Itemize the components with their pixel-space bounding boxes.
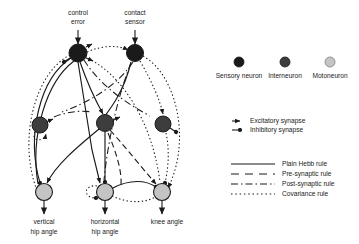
legend-neuron-types: Sensory neuron Interneuron Motoneuron	[216, 57, 348, 80]
output-arrows	[44, 200, 162, 214]
legend-label-inhibitory-synapse: Inhibitory synapse	[250, 126, 303, 134]
input-arrows	[78, 30, 135, 44]
edge-interneuron-middle-to-knee-dashed	[110, 130, 156, 184]
legend-label-interneuron: Interneuron	[268, 72, 302, 79]
legend-synapse-types: Excitatory synapse Inhibitory synapse	[232, 117, 306, 134]
edge-interneuron-right-to-knee-dotted	[165, 133, 168, 183]
legend-label-motoneuron: Motoneuron	[312, 72, 348, 79]
input-labels: control error contact sensor	[68, 9, 146, 25]
neuron-horizontal-hip-angle[interactable]	[97, 184, 114, 201]
terminal-mark-2	[86, 58, 93, 61]
neuron-interneuron-right[interactable]	[155, 116, 171, 132]
label-horizontal-hip-line1: horizontal	[91, 218, 120, 225]
label-vertical-hip-line1: vertical	[34, 218, 55, 225]
output-labels: vertical hip angle horizontal hip angle …	[31, 218, 184, 236]
neuron-contact-sensor[interactable]	[127, 45, 144, 62]
label-control-error-line1: control	[68, 9, 88, 16]
label-horizontal-hip-line2: hip angle	[92, 228, 119, 236]
edge-horizontal-hip-to-knee-dotted	[112, 196, 157, 202]
neuron-vertical-hip-angle[interactable]	[36, 184, 53, 201]
label-knee-angle: knee angle	[151, 218, 184, 226]
motoneurons	[36, 184, 171, 201]
terminal-mark-6	[170, 128, 176, 132]
edge-control-error-to-interneuron-middle	[80, 62, 103, 114]
neuron-control-error[interactable]	[69, 44, 87, 62]
neuron-interneuron-middle[interactable]	[97, 115, 114, 132]
neuron-interneuron-left[interactable]	[32, 117, 48, 133]
interneurons	[32, 115, 171, 134]
legend-label-covariance-rule: Covariance rule	[282, 190, 329, 197]
edge-control-error-to-contact-sensor-dotted	[87, 46, 128, 52]
edges-pre-synaptic	[108, 130, 156, 186]
legend-label-sensory-neuron: Sensory neuron	[216, 72, 263, 80]
legend-swatch-interneuron	[280, 57, 290, 67]
neuron-knee-angle[interactable]	[154, 184, 171, 201]
legend-swatch-motoneuron	[325, 57, 335, 67]
edges-plain-hebb	[35, 58, 156, 188]
label-control-error-line2: error	[71, 18, 86, 25]
legend-label-plain-hebb-rule: Plain Hebb rule	[282, 160, 327, 167]
legend-learning-rules: Plain Hebb rule Pre-synaptic rule Post-s…	[231, 160, 335, 197]
label-contact-sensor-line2: sensor	[125, 18, 146, 25]
terminal-mark-1	[86, 44, 92, 47]
legend-label-post-synaptic-rule: Post-synaptic rule	[282, 180, 335, 188]
legend-label-excitatory-synapse: Excitatory synapse	[250, 117, 306, 125]
label-vertical-hip-line2: hip angle	[31, 228, 58, 236]
legend-label-pre-synaptic-rule: Pre-synaptic rule	[282, 170, 332, 178]
edge-horizontal-hip-to-knee	[113, 182, 156, 189]
label-contact-sensor-line1: contact	[124, 9, 145, 16]
network-diagram: control error contact sensor vertical hi…	[0, 0, 359, 244]
legend-swatch-sensory-neuron	[234, 57, 244, 67]
self-loop-horizontal-hip	[86, 186, 97, 198]
edge-interneuron-middle-to-vertical-hip	[47, 129, 99, 183]
edge-contact-sensor-to-interneuron-right-dotted	[140, 61, 163, 114]
